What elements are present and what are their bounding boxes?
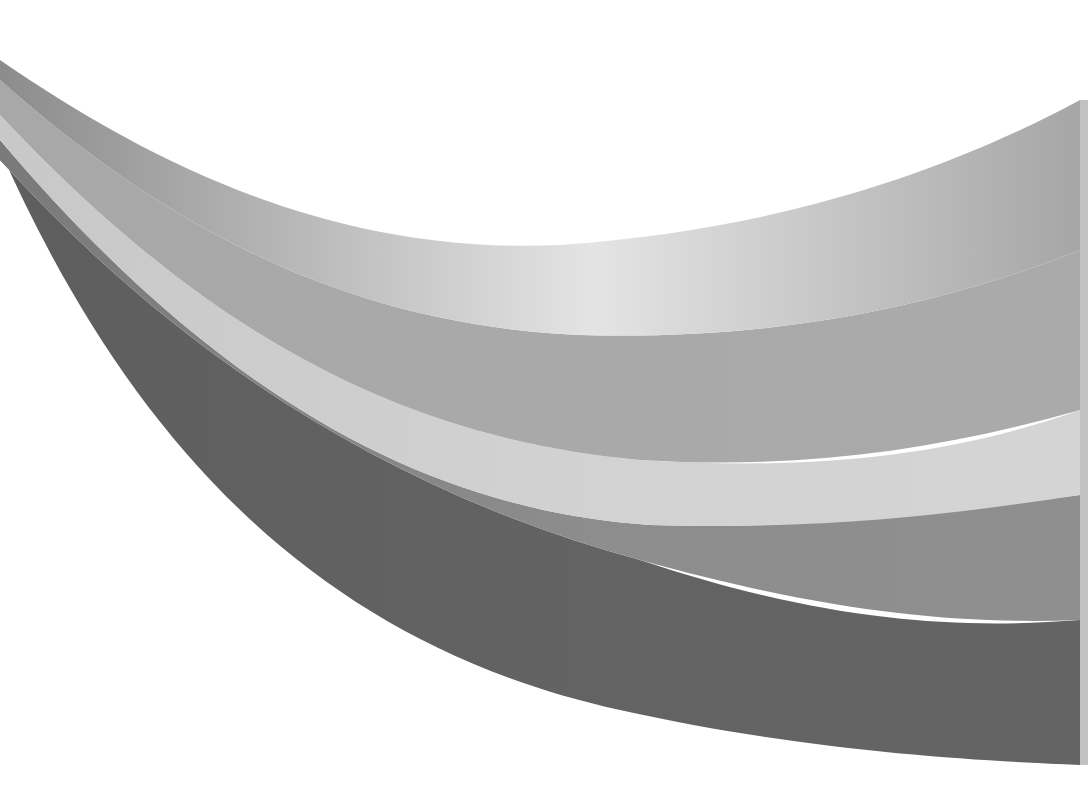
- abstract-curved-bands: [0, 0, 1088, 798]
- right-edge-shadow: [1080, 100, 1088, 765]
